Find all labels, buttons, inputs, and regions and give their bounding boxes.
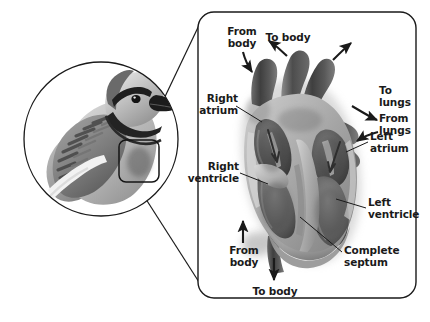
label-to-body-bottom: To body [248, 286, 302, 298]
label-to-body-top: To body [262, 32, 314, 44]
label-right-ventricle: Right ventricle [187, 161, 239, 184]
label-from-body-bottom: From body [224, 245, 264, 268]
label-left-ventricle: Left ventricle [368, 197, 420, 220]
label-complete-septum: Complete septum [344, 245, 410, 268]
label-right-atrium: Right atrium [196, 93, 238, 116]
label-from-body-top: From body [222, 26, 262, 49]
bird-inset [24, 62, 182, 216]
label-left-atrium: Left atrium [370, 131, 412, 154]
label-to-lungs: To lungs [379, 85, 419, 108]
bird-eye [131, 95, 140, 103]
